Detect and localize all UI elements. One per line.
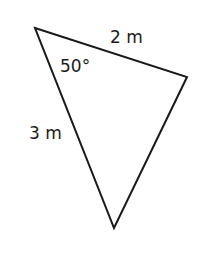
angle-label: 50°	[60, 56, 90, 76]
side-label-top: 2 m	[110, 27, 143, 47]
triangle-diagram: 2 m 50° 3 m	[0, 0, 204, 275]
side-label-left: 3 m	[29, 123, 62, 143]
